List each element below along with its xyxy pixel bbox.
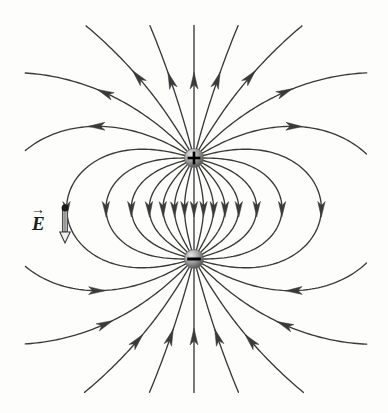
- field-arrowhead: [276, 89, 293, 99]
- field-line: [201, 266, 367, 344]
- field-line: [25, 266, 187, 344]
- field-line: [25, 264, 185, 291]
- field-line: [196, 268, 238, 392]
- minus-icon: [187, 258, 201, 261]
- plus-icon: [193, 152, 196, 165]
- probe-point-dot: [62, 205, 69, 212]
- field-line: [202, 263, 366, 291]
- field-line: [201, 163, 239, 255]
- field-arrowhead: [97, 89, 114, 99]
- field-line: [202, 126, 366, 154]
- e-field-label: → E: [32, 214, 45, 233]
- e-vector-shaft: [62, 209, 67, 232]
- e-vector-arrowhead: [60, 232, 70, 243]
- field-line: [174, 166, 190, 252]
- dipole-field-figure: → E: [0, 0, 388, 413]
- field-line: [202, 149, 321, 268]
- field-line: [150, 268, 192, 392]
- field-line: [67, 149, 186, 268]
- negative-charge: [185, 250, 204, 269]
- field-arrowhead: [277, 322, 294, 332]
- field-line: [25, 126, 185, 153]
- field-line: [198, 166, 214, 252]
- field-line: [149, 163, 187, 255]
- field-line: [25, 73, 187, 151]
- positive-charge: [185, 149, 204, 168]
- field-line-canvas: [0, 0, 388, 413]
- field-arrowhead: [96, 321, 113, 331]
- field-line: [201, 73, 367, 151]
- e-letter: E: [32, 213, 45, 234]
